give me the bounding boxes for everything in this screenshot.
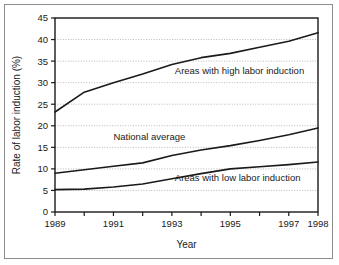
x-axis-title: Year	[176, 239, 197, 250]
y-axis-title: Rate of labor induction (%)	[11, 56, 22, 174]
y-axis-tick-label: 5	[43, 185, 48, 196]
y-axis-tick-label: 10	[37, 163, 48, 174]
series-annotation-label: Areas with low labor induction	[175, 172, 301, 183]
y-axis-tick-label: 35	[37, 56, 48, 67]
x-axis-tick-label: 1995	[220, 218, 241, 229]
chart-figure: 0510152025303540451989199119931995199719…	[0, 0, 339, 265]
x-axis-tick-label: 1989	[44, 218, 65, 229]
series-annotation-label: Areas with high labor induction	[175, 65, 304, 76]
y-axis-tick-label: 15	[37, 142, 48, 153]
x-axis-tick-label: 1993	[161, 218, 182, 229]
x-axis-tick-label: 1991	[103, 218, 124, 229]
y-axis-tick-label: 20	[37, 120, 48, 131]
y-axis-tick-label: 45	[37, 12, 48, 23]
y-axis-tick-label: 30	[37, 77, 48, 88]
line-chart: 0510152025303540451989199119931995199719…	[0, 0, 339, 265]
x-axis-tick-label: 1998	[307, 218, 328, 229]
series-annotation-label: National average	[113, 131, 185, 142]
y-axis-tick-label: 25	[37, 99, 48, 110]
x-axis-tick-label: 1997	[278, 218, 299, 229]
y-axis-tick-label: 40	[37, 34, 48, 45]
y-axis-tick-label: 0	[43, 206, 48, 217]
series-line	[55, 128, 318, 173]
